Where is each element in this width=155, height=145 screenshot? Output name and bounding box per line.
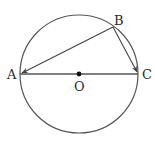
label-b: B [114, 14, 124, 27]
geometry-figure [0, 0, 155, 145]
label-o: O [74, 80, 85, 93]
label-a: A [7, 68, 16, 81]
label-c: C [142, 68, 152, 81]
center-point-o [77, 72, 82, 77]
vector-bc [113, 27, 137, 72]
diagram-canvas: A B C O [0, 0, 155, 145]
